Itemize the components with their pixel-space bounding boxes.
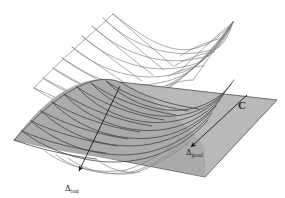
delta-good-subscript: good [191, 152, 202, 158]
delta-bad-subscript: bad [70, 188, 78, 194]
figure-container: C Δbad Δgood [0, 0, 285, 198]
delta-bad-label: Δbad [65, 177, 79, 195]
plane-label-c: C [238, 99, 246, 111]
delta-good-label: Δgood [186, 141, 203, 159]
